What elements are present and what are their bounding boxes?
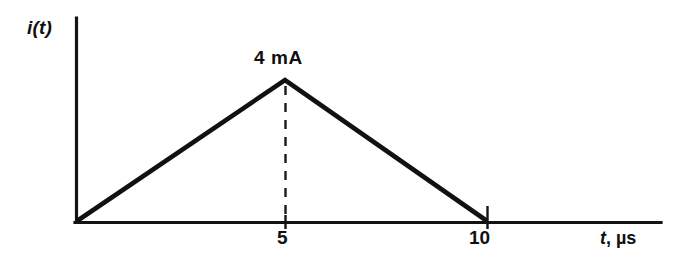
x-tick-label-5: 5 <box>277 228 288 247</box>
peak-value-label: 4 mA <box>254 48 303 67</box>
x-axis-label-units: , µs <box>606 228 636 248</box>
triangular-current-pulse-figure: i(t) 4 mA 5 10 t, µs <box>0 0 676 265</box>
x-axis-label: t, µs <box>600 229 636 247</box>
x-tick-label-10: 10 <box>469 228 490 247</box>
y-axis-label: i(t) <box>27 18 52 37</box>
chart-canvas <box>0 0 676 265</box>
signal-waveform-triangle <box>77 80 487 221</box>
